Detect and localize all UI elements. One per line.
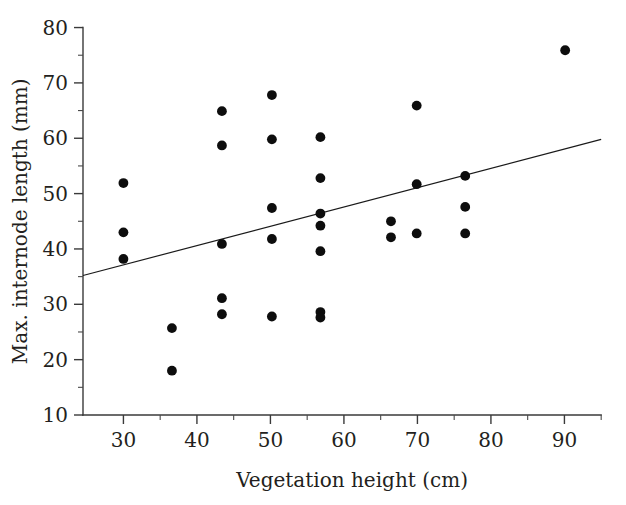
data-point [267,234,277,244]
data-points [119,45,571,375]
x-tick-label: 40 [184,428,209,452]
data-point [267,203,277,213]
data-point [217,141,227,151]
x-tick-label: 90 [552,428,577,452]
x-tick-label: 70 [405,428,430,452]
data-point [412,229,422,239]
data-point [316,246,326,256]
data-point [217,309,227,319]
regression-line [83,139,601,275]
data-point [217,239,227,249]
data-point [267,90,277,100]
y-tick-label: 30 [43,292,68,316]
x-tick-label: 80 [478,428,503,452]
data-point [316,313,326,323]
data-point [412,101,422,111]
data-point [267,134,277,144]
data-point [167,366,177,376]
y-tick-label: 10 [43,403,68,427]
x-tick-label: 50 [258,428,283,452]
data-point [267,312,277,322]
data-point [119,227,129,237]
data-point [460,171,470,181]
data-point [119,254,129,264]
data-point [560,45,570,55]
data-point [386,216,396,226]
data-point [316,173,326,183]
data-point [460,229,470,239]
y-tick-label: 60 [43,126,68,150]
data-point [412,179,422,189]
y-tick-label: 80 [43,16,68,40]
data-point [386,232,396,242]
scatter-plot-figure: 304050607080901020304050607080 Vegetatio… [0,0,626,505]
y-tick-label: 40 [43,237,68,261]
y-axis-title: Max. internode length (mm) [8,78,32,364]
x-tick-label: 60 [331,428,356,452]
data-point [460,202,470,212]
data-point [119,178,129,188]
data-point [217,293,227,303]
y-tick-label: 70 [43,71,68,95]
plot-canvas: 304050607080901020304050607080 Vegetatio… [0,0,626,505]
data-point [167,323,177,333]
y-tick-label: 50 [43,182,68,206]
x-tick-label: 30 [111,428,136,452]
data-point [316,209,326,219]
data-point [217,106,227,116]
x-axis-title: Vegetation height (cm) [235,468,468,492]
data-point [316,221,326,231]
axis-ticks [74,28,601,424]
y-tick-label: 20 [43,348,68,372]
regression-fit-line [83,139,601,275]
data-point [316,132,326,142]
plot-axes [83,28,601,415]
